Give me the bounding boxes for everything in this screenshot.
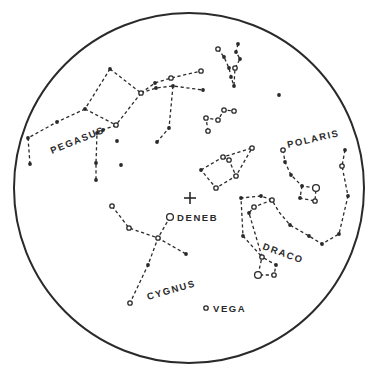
pegasus-star-icon [55, 120, 59, 124]
pegasus-line [116, 93, 141, 125]
cygnus-star-icon [110, 204, 114, 208]
ursa-minor-star-icon [281, 148, 285, 152]
label-pegasus: PEGASUS [49, 124, 107, 156]
pegasus-star-icon [119, 163, 123, 167]
pegasus-line [85, 69, 110, 109]
draco-star-icon [259, 194, 263, 198]
ursa-minor-line [283, 150, 316, 188]
draco-star-icon [288, 223, 292, 227]
label-cygnus: CYGNUS [146, 277, 197, 301]
label-draco: DRACO [261, 241, 305, 266]
ursa-minor-star-icon [300, 184, 304, 188]
andromeda-star-icon [171, 84, 175, 88]
cepheus-star-icon [199, 168, 203, 172]
zenith-cross-icon [184, 192, 196, 204]
perseus-star-icon [236, 42, 240, 46]
perseus-star-icon [233, 66, 237, 70]
cygnus-star-icon [167, 214, 174, 221]
andromeda-star-icon [201, 88, 205, 92]
draco-star-icon [241, 234, 245, 238]
auriga-star-icon [206, 129, 210, 133]
draco-star-icon [340, 164, 344, 168]
horizon-circle [14, 13, 364, 363]
draco-line [249, 200, 276, 275]
star-chart: PEGASUS POLARIS DENEB CYGNUS DRACO VEGA [0, 0, 375, 375]
draco-star-icon [247, 211, 251, 215]
draco-star-icon [270, 198, 274, 202]
pegasus-star-icon [28, 162, 32, 166]
auriga-star-icon [204, 116, 208, 120]
cepheus-star-icon [234, 174, 238, 178]
cygnus-star-icon [146, 263, 150, 267]
perseus-star-icon [238, 57, 242, 61]
pegasus-star-icon [26, 136, 30, 140]
andromeda-star-icon [155, 140, 159, 144]
ursa-minor-star-icon [313, 185, 320, 192]
draco-star-icon [346, 194, 350, 198]
perseus-star-icon [232, 84, 236, 88]
andromeda-star-icon [167, 126, 171, 130]
draco-star-icon [239, 196, 243, 200]
draco-star-icon [272, 273, 276, 277]
perseus-line [218, 49, 234, 86]
cygnus-star-icon [156, 236, 160, 240]
andromeda-star-icon [154, 86, 158, 90]
cygnus-star-icon [128, 301, 132, 305]
draco-star-icon [255, 272, 262, 279]
andromeda-star-icon [153, 81, 157, 85]
cygnus-star-icon [127, 226, 131, 230]
andromeda-star-icon [169, 76, 173, 80]
pegasus-star-icon [83, 107, 87, 111]
pegasus-line [85, 109, 116, 125]
auriga-star-icon [216, 118, 220, 122]
pegasus-star-icon [139, 91, 143, 95]
draco-star-icon [337, 232, 341, 236]
auriga-star-icon [222, 108, 226, 112]
draco-star-icon [307, 234, 311, 238]
perseus-star-icon [229, 75, 233, 79]
perseus-star-icon [227, 66, 231, 70]
label-vega: VEGA [213, 303, 246, 314]
cygnus-line [112, 206, 186, 254]
lyra-star-icon [204, 306, 208, 310]
draco-star-icon [274, 263, 278, 267]
pegasus-star-icon [94, 161, 98, 165]
labels: PEGASUS POLARIS DENEB CYGNUS DRACO VEGA [49, 124, 341, 314]
draco-line [241, 150, 348, 257]
ursa-minor-star-icon [313, 199, 317, 203]
ursa-minor-star-icon [289, 173, 293, 177]
cepheus-star-icon [250, 146, 254, 150]
draco-star-icon [260, 255, 264, 259]
label-deneb: DENEB [177, 212, 218, 223]
perseus-star-icon [222, 55, 226, 59]
perseus-line [234, 44, 240, 86]
andromeda-line [141, 71, 201, 93]
ursa-minor-star-icon [283, 160, 287, 164]
pegasus-star-icon [108, 67, 112, 71]
pegasus-star-icon [114, 123, 118, 127]
cepheus-star-icon [214, 186, 218, 190]
draco-star-icon [320, 242, 324, 246]
ursa-minor-star-icon [298, 196, 302, 200]
perseus-star-icon [234, 50, 238, 54]
pegasus-star-icon [115, 139, 119, 143]
auriga-star-icon [232, 109, 236, 113]
cepheus-star-icon [227, 158, 231, 162]
cepheus-line [201, 148, 252, 188]
pegasus-star-icon [94, 178, 98, 182]
cygnus-star-icon [184, 252, 188, 256]
perseus-star-icon [216, 47, 220, 51]
andromeda-star-icon [199, 69, 203, 73]
pegasus-line [110, 69, 141, 93]
andromeda-line [157, 86, 173, 142]
draco-star-icon [343, 148, 347, 152]
cepheus-star-icon [221, 155, 225, 159]
stars [26, 42, 350, 310]
auriga-star-icon [277, 93, 281, 97]
label-polaris: POLARIS [286, 127, 341, 150]
draco-star-icon [252, 205, 256, 209]
